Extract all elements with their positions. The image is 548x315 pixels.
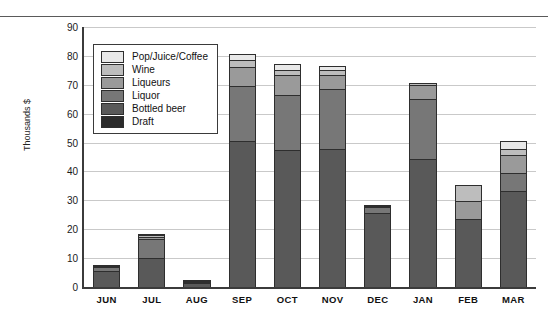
y-axis-tick-label: 70 — [38, 79, 78, 90]
legend-item[interactable]: Bottled beer — [101, 102, 208, 115]
bar-segment[interactable] — [229, 86, 256, 141]
x-axis-tick-label: AUG — [174, 294, 219, 305]
header-divider — [0, 16, 548, 17]
legend-item-label: Draft — [132, 117, 154, 127]
stacked-bar[interactable] — [138, 234, 165, 287]
x-axis-tick-label: FEB — [446, 294, 491, 305]
legend-swatch-icon — [101, 64, 124, 76]
x-axis-tick-label: OCT — [265, 294, 310, 305]
bar-segment[interactable] — [274, 75, 301, 95]
bar-segment[interactable] — [409, 99, 436, 159]
bar-segment[interactable] — [409, 159, 436, 287]
legend-item[interactable]: Liquor — [101, 89, 208, 102]
x-axis-tick-label: DEC — [355, 294, 400, 305]
bar-segment[interactable] — [319, 75, 346, 90]
stacked-bar[interactable] — [229, 54, 256, 287]
stacked-bar-chart: Thousands $ 0102030405060708090 JUNJULAU… — [0, 0, 548, 315]
bar-segment[interactable] — [93, 271, 120, 287]
stacked-bar[interactable] — [319, 66, 346, 287]
bar-segment[interactable] — [274, 150, 301, 287]
bar-segment[interactable] — [229, 141, 256, 287]
legend-item[interactable]: Pop/Juice/Coffee — [101, 50, 208, 63]
bar-group: MAR — [491, 27, 536, 287]
bar-group: OCT — [265, 27, 310, 287]
bar-segment[interactable] — [455, 185, 482, 201]
chart-legend: Pop/Juice/CoffeeWineLiqueursLiquorBottle… — [93, 44, 218, 134]
legend-item-label: Liqueurs — [132, 78, 170, 88]
stacked-bar[interactable] — [93, 265, 120, 287]
y-axis-tick-label: 80 — [38, 50, 78, 61]
x-axis-tick-label: JAN — [400, 294, 445, 305]
bar-segment[interactable] — [455, 219, 482, 287]
y-axis-tick-label: 10 — [38, 253, 78, 264]
x-axis-tick-label: SEP — [220, 294, 265, 305]
bar-segment[interactable] — [500, 141, 527, 148]
legend-swatch-icon — [101, 103, 124, 115]
stacked-bar[interactable] — [183, 280, 210, 287]
x-axis-tick-label: JUL — [129, 294, 174, 305]
legend-swatch-icon — [101, 77, 124, 89]
y-axis-tick-label: 40 — [38, 166, 78, 177]
bar-segment[interactable] — [138, 258, 165, 287]
bar-segment[interactable] — [229, 60, 256, 67]
legend-item[interactable]: Draft — [101, 115, 208, 128]
y-axis-title: Thousands $ — [22, 80, 32, 170]
bar-segment[interactable] — [500, 173, 527, 190]
legend-item[interactable]: Wine — [101, 63, 208, 76]
bar-segment[interactable] — [500, 155, 527, 174]
stacked-bar[interactable] — [274, 64, 301, 287]
bar-segment[interactable] — [364, 213, 391, 287]
y-axis-tick-label: 90 — [38, 22, 78, 33]
legend-item-label: Pop/Juice/Coffee — [132, 52, 208, 62]
bar-segment[interactable] — [274, 95, 301, 150]
y-axis-tick-label: 50 — [38, 137, 78, 148]
bar-segment[interactable] — [500, 191, 527, 287]
x-axis-tick-label: NOV — [310, 294, 355, 305]
legend-item-label: Liquor — [132, 91, 160, 101]
bar-group: JAN — [400, 27, 445, 287]
legend-swatch-icon — [101, 116, 124, 128]
stacked-bar[interactable] — [455, 185, 482, 287]
bar-segment[interactable] — [319, 89, 346, 149]
bar-segment[interactable] — [409, 85, 436, 100]
bar-group: DEC — [355, 27, 400, 287]
bar-segment[interactable] — [229, 67, 256, 86]
bar-segment[interactable] — [183, 283, 210, 287]
legend-item-label: Bottled beer — [132, 104, 186, 114]
stacked-bar[interactable] — [364, 205, 391, 287]
legend-swatch-icon — [101, 51, 124, 63]
bar-segment[interactable] — [319, 149, 346, 287]
bar-segment[interactable] — [455, 201, 482, 218]
stacked-bar[interactable] — [409, 83, 436, 287]
y-axis-tick-label: 60 — [38, 108, 78, 119]
y-axis-tick-label: 0 — [38, 282, 78, 293]
bar-group: FEB — [446, 27, 491, 287]
bar-group: NOV — [310, 27, 355, 287]
legend-item-label: Wine — [132, 65, 155, 75]
x-axis-tick-label: MAR — [491, 294, 536, 305]
y-axis-tick-label: 20 — [38, 224, 78, 235]
stacked-bar[interactable] — [500, 141, 527, 287]
y-axis-tick-label: 30 — [38, 195, 78, 206]
bar-segment[interactable] — [138, 239, 165, 258]
legend-item[interactable]: Liqueurs — [101, 76, 208, 89]
x-axis-tick-label: JUN — [84, 294, 129, 305]
bar-group: SEP — [220, 27, 265, 287]
legend-swatch-icon — [101, 90, 124, 102]
